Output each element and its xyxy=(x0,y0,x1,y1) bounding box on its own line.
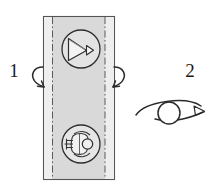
rotate-pivot-circle xyxy=(158,102,180,124)
flip-arrow-left xyxy=(33,67,44,87)
strip-left-margin xyxy=(44,17,52,179)
step-2-label: 2 xyxy=(185,60,195,81)
diagram-canvas: 1 2 xyxy=(0,0,216,191)
figure-head xyxy=(82,139,92,149)
projector-beam-icon xyxy=(62,30,100,68)
rotate-arc-arrow xyxy=(136,101,205,124)
instruction-diagram: 1 2 xyxy=(0,0,216,191)
figure-icon xyxy=(62,125,100,163)
step-1-label: 1 xyxy=(9,60,19,81)
rotate-arc-arrowhead xyxy=(194,106,205,116)
strip-right-margin xyxy=(105,17,114,179)
